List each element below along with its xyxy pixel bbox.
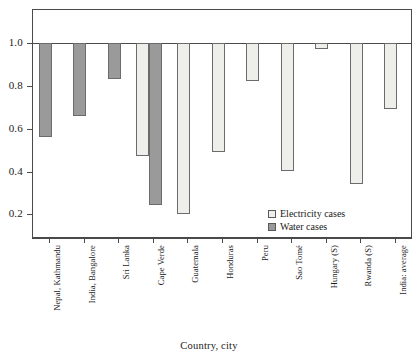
x-tick-label: Cape Verde xyxy=(157,245,166,285)
x-tick-mark xyxy=(84,238,85,243)
chart-figure: 1.0 0.8 0.6 0.4 0.2 Nepal, KathmanduIndi… xyxy=(0,0,418,358)
bar-electricity xyxy=(246,43,259,81)
x-tick-mark xyxy=(118,238,119,243)
x-tick-label: Guatemala xyxy=(191,245,200,283)
x-tick-label: Nepal, Kathmandu xyxy=(53,245,62,311)
legend-label-electricity: Electricity cases xyxy=(280,207,345,220)
x-tick-mark xyxy=(153,238,154,243)
x-tick-mark xyxy=(222,238,223,243)
chart-legend: Electricity cases Water cases xyxy=(268,207,345,233)
x-tick-mark xyxy=(395,238,396,243)
x-tick-mark xyxy=(360,238,361,243)
bar-electricity xyxy=(212,43,225,152)
x-tick-mark xyxy=(326,238,327,243)
x-tick-label: India, Bangalore xyxy=(88,245,97,303)
x-axis-title: Country, city xyxy=(0,340,418,351)
legend-label-water: Water cases xyxy=(280,220,327,233)
legend-item-electricity: Electricity cases xyxy=(268,207,345,220)
bar-electricity xyxy=(350,43,363,184)
x-tick-label: Peru xyxy=(261,245,270,261)
bars-layer xyxy=(0,0,418,358)
x-tick-mark xyxy=(49,238,50,243)
x-tick-label: India: average xyxy=(399,245,408,295)
x-tick-label: Sri Lanka xyxy=(122,245,131,279)
bar-water xyxy=(39,43,52,137)
bar-water xyxy=(149,43,162,205)
bar-water xyxy=(73,43,86,116)
bar-electricity xyxy=(136,43,149,156)
x-tick-label: Honduras xyxy=(226,245,235,279)
x-tick-mark xyxy=(187,238,188,243)
x-tick-label: Hungary (S) xyxy=(330,245,339,288)
bar-electricity xyxy=(177,43,190,214)
legend-item-water: Water cases xyxy=(268,220,345,233)
bar-electricity xyxy=(281,43,294,171)
legend-swatch-electricity-icon xyxy=(268,210,276,218)
legend-swatch-water-icon xyxy=(268,223,276,231)
bar-electricity xyxy=(384,43,397,109)
x-tick-label: Sao Tomé xyxy=(295,245,304,280)
bar-water xyxy=(108,43,121,79)
bar-electricity xyxy=(315,43,328,49)
x-tick-mark xyxy=(257,238,258,243)
x-tick-mark xyxy=(291,238,292,243)
x-tick-label: Rwanda (S) xyxy=(364,245,373,286)
